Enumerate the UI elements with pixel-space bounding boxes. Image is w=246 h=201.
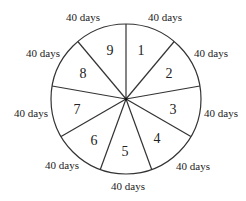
duration-label-8: 40 days (26, 48, 60, 59)
sector-number-9: 9 (107, 44, 114, 58)
sector-number-6: 6 (91, 134, 98, 148)
duration-label-6: 40 days (45, 160, 79, 171)
sector-number-4: 4 (154, 132, 161, 146)
center-point (125, 98, 128, 101)
sector-number-5: 5 (122, 145, 129, 159)
duration-label-7: 40 days (14, 108, 48, 119)
duration-label-5: 40 days (111, 181, 145, 192)
sector-number-2: 2 (166, 67, 173, 81)
duration-label-3: 40 days (204, 108, 238, 119)
sector-number-3: 3 (170, 103, 177, 117)
sector-number-7: 7 (74, 103, 81, 117)
duration-label-1: 40 days (148, 12, 182, 23)
duration-label-9: 40 days (66, 12, 100, 23)
sector-number-8: 8 (80, 67, 87, 81)
sector-number-1: 1 (138, 44, 145, 58)
duration-label-2: 40 days (194, 48, 228, 59)
duration-label-4: 40 days (176, 161, 210, 172)
